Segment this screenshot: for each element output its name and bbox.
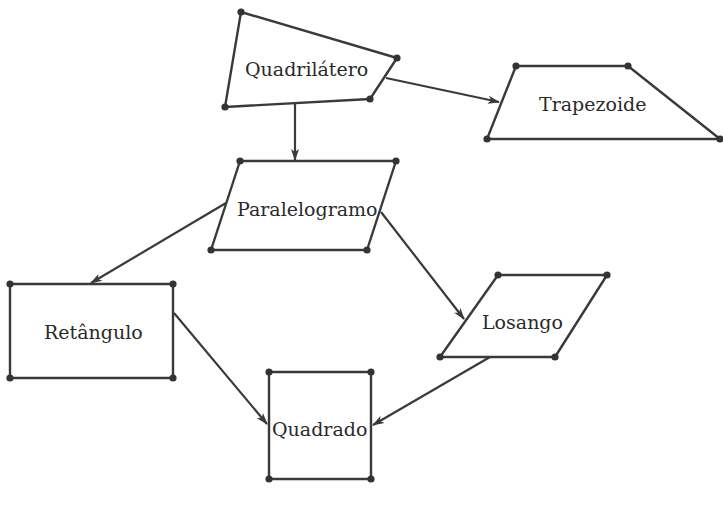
quadrado-vertex-dot: [367, 368, 374, 375]
edge-paralelogramo-losango: [381, 212, 464, 319]
losango-vertex-dot: [551, 353, 558, 360]
quadrilatero-vertex-dot: [221, 103, 228, 110]
edge-retangulo-quadrado: [174, 313, 267, 424]
node-retangulo: Retângulo: [10, 284, 173, 378]
retangulo-vertex-dot: [6, 280, 13, 287]
retangulo-vertex-dot: [169, 280, 176, 287]
trapezoide-vertex-dot: [483, 135, 490, 142]
paralelogramo-vertex-dot: [207, 246, 214, 253]
retangulo-label: Retângulo: [44, 321, 143, 343]
paralelogramo-vertex-dot: [392, 157, 399, 164]
retangulo-vertex-dot: [6, 374, 13, 381]
losango-vertex-dot: [494, 271, 501, 278]
quadrilatero-vertex-dot: [237, 8, 244, 15]
quadrado-label: Quadrado: [272, 418, 367, 440]
quadrado-vertex-dot: [265, 475, 272, 482]
edge-losango-quadrado: [373, 357, 490, 425]
trapezoide-vertex-dot: [512, 62, 519, 69]
paralelogramo-vertex-dot: [236, 157, 243, 164]
quadrado-vertex-dot: [265, 368, 272, 375]
node-quadrilatero: Quadrilátero: [225, 12, 397, 107]
node-paralelogramo: Paralelogramo: [211, 161, 396, 250]
edge-paralelogramo-retangulo: [91, 203, 226, 283]
paralelogramo-vertex-dot: [363, 246, 370, 253]
paralelogramo-label: Paralelogramo: [237, 198, 378, 220]
retangulo-vertex-dot: [169, 374, 176, 381]
edge-quadrilatero-trapezoide: [386, 78, 499, 102]
losango-vertex-dot: [603, 271, 610, 278]
node-quadrado: Quadrado: [269, 372, 371, 479]
losango-label: Losango: [482, 311, 563, 333]
quadrado-vertex-dot: [367, 475, 374, 482]
node-trapezoide: Trapezoide: [487, 66, 720, 139]
node-losango: Losango: [440, 275, 607, 357]
quadrilatero-vertex-dot: [393, 54, 400, 61]
trapezoide-vertex-dot: [624, 62, 631, 69]
quadrilatero-vertex-dot: [366, 95, 373, 102]
losango-vertex-dot: [436, 353, 443, 360]
quadrilatero-label: Quadrilátero: [245, 58, 368, 80]
quadrilateral-hierarchy-diagram: Quadrilátero Trapezoide Paralelogramo Re…: [0, 0, 723, 512]
trapezoide-label: Trapezoide: [539, 93, 646, 115]
